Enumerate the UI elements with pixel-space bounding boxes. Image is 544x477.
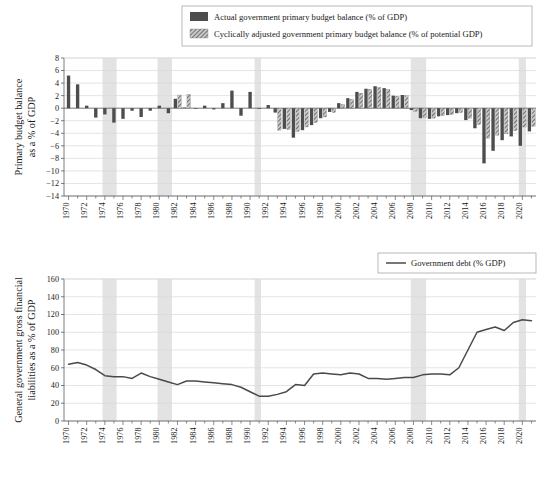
x-tick-label: 1986 bbox=[207, 428, 216, 444]
x-tick-label: 2006 bbox=[388, 203, 397, 219]
y-tick-label: 2 bbox=[55, 92, 59, 101]
x-tick-label: 2008 bbox=[406, 428, 415, 444]
bar-cyclically-adjusted bbox=[396, 96, 399, 108]
bar-actual bbox=[230, 91, 233, 109]
x-tick-label: 2006 bbox=[388, 428, 397, 444]
x-tick-label: 1992 bbox=[261, 203, 270, 219]
legend-label-government-debt: Government debt (% GDP) bbox=[411, 258, 505, 268]
bar-cyclically-adjusted bbox=[187, 94, 190, 108]
bar-cyclically-adjusted bbox=[305, 108, 308, 127]
bar-cyclically-adjusted bbox=[287, 108, 290, 129]
bar-actual bbox=[112, 108, 115, 122]
y-tick-label: −12 bbox=[46, 179, 59, 188]
y-tick-label: −8 bbox=[50, 154, 59, 163]
y-tick-label: 40 bbox=[51, 381, 59, 390]
x-tick-label: 1976 bbox=[116, 428, 125, 444]
bar-actual bbox=[283, 108, 286, 129]
bar-cyclically-adjusted bbox=[378, 87, 381, 108]
bar-cyclically-adjusted bbox=[323, 108, 326, 117]
legend-label-actual: Actual government primary budget balance… bbox=[214, 12, 407, 22]
bar-actual bbox=[373, 86, 376, 108]
x-tick-label: 2012 bbox=[443, 428, 452, 444]
bar-cyclically-adjusted bbox=[505, 108, 508, 134]
bar-actual bbox=[410, 108, 413, 110]
bar-actual bbox=[301, 108, 304, 130]
x-tick-label: 1978 bbox=[134, 428, 143, 444]
x-tick-label: 2016 bbox=[479, 428, 488, 444]
bar-cyclically-adjusted bbox=[450, 108, 453, 114]
bar-actual bbox=[121, 108, 124, 119]
y-axis-title-line1: General government gross financial bbox=[13, 277, 24, 423]
bar-cyclically-adjusted bbox=[532, 108, 535, 126]
bar-actual bbox=[94, 108, 97, 117]
x-tick-label: 1974 bbox=[98, 428, 107, 444]
bar-cyclically-adjusted bbox=[350, 99, 353, 108]
y-tick-label: −10 bbox=[46, 167, 59, 176]
bar-actual bbox=[428, 108, 431, 119]
bar-actual bbox=[194, 108, 197, 109]
bar-actual bbox=[528, 108, 531, 131]
bar-cyclically-adjusted bbox=[459, 108, 462, 112]
bar-actual bbox=[401, 95, 404, 108]
bar-actual bbox=[274, 108, 277, 112]
x-tick-label: 1974 bbox=[98, 203, 107, 219]
bar-actual bbox=[510, 108, 513, 136]
bar-cyclically-adjusted bbox=[432, 108, 435, 118]
bar-actual bbox=[364, 89, 367, 108]
x-tick-label: 1976 bbox=[116, 203, 125, 219]
x-tick-label: 1980 bbox=[152, 428, 161, 444]
x-tick-label: 1970 bbox=[62, 428, 71, 444]
y-tick-label: −4 bbox=[50, 129, 59, 138]
x-tick-label: 2020 bbox=[515, 428, 524, 444]
bar-actual bbox=[248, 92, 251, 108]
bar-cyclically-adjusted bbox=[341, 104, 344, 108]
bar-actual bbox=[328, 108, 331, 112]
bar-actual bbox=[482, 108, 485, 163]
x-tick-label: 1996 bbox=[298, 203, 307, 219]
bar-cyclically-adjusted bbox=[496, 108, 499, 135]
bar-cyclically-adjusted bbox=[468, 108, 471, 118]
bar-actual bbox=[167, 108, 170, 113]
bar-actual bbox=[139, 108, 142, 117]
y-tick-label: 60 bbox=[51, 364, 59, 373]
x-tick-label: 2004 bbox=[370, 428, 379, 444]
y-tick-label: 4 bbox=[55, 79, 59, 88]
bar-actual bbox=[67, 76, 70, 109]
x-tick-label: 2010 bbox=[425, 203, 434, 219]
bar-actual bbox=[257, 108, 260, 109]
recession-band bbox=[103, 58, 117, 196]
legend-label-cyclically-adjusted: Cyclically adjusted government primary b… bbox=[214, 29, 483, 39]
x-tick-label: 2018 bbox=[497, 203, 506, 219]
x-tick-label: 1998 bbox=[316, 428, 325, 444]
bar-actual bbox=[464, 108, 467, 120]
bar-actual bbox=[355, 92, 358, 108]
x-tick-label: 1996 bbox=[298, 428, 307, 444]
x-tick-label: 2020 bbox=[515, 203, 524, 219]
x-tick-label: 1994 bbox=[279, 428, 288, 444]
x-tick-label: 2014 bbox=[461, 428, 470, 444]
bar-actual bbox=[382, 88, 385, 108]
recession-band bbox=[411, 58, 426, 196]
x-tick-label: 1986 bbox=[207, 203, 216, 219]
y-tick-label: −2 bbox=[50, 117, 59, 126]
bar-actual bbox=[183, 108, 186, 109]
y-tick-label: 0 bbox=[55, 104, 59, 113]
y-tick-label: 80 bbox=[51, 346, 59, 355]
x-tick-label: 1972 bbox=[80, 203, 89, 219]
bar-actual bbox=[437, 108, 440, 116]
legend-swatch-actual bbox=[190, 12, 208, 21]
x-tick-label: 1990 bbox=[243, 428, 252, 444]
bar-actual bbox=[319, 108, 322, 118]
bar-actual bbox=[491, 108, 494, 151]
x-tick-label: 2002 bbox=[352, 428, 361, 444]
y-tick-label: 140 bbox=[47, 293, 59, 302]
bar-actual bbox=[267, 105, 270, 108]
bar-cyclically-adjusted bbox=[514, 108, 517, 131]
x-tick-label: 2016 bbox=[479, 203, 488, 219]
bar-cyclically-adjusted bbox=[368, 89, 371, 108]
bar-cyclically-adjusted bbox=[414, 108, 417, 111]
y-axis-title-line2: as a % of GDP bbox=[26, 96, 37, 157]
x-tick-label: 2000 bbox=[334, 203, 343, 219]
y-tick-label: 0 bbox=[55, 417, 59, 426]
recession-band bbox=[157, 58, 172, 196]
